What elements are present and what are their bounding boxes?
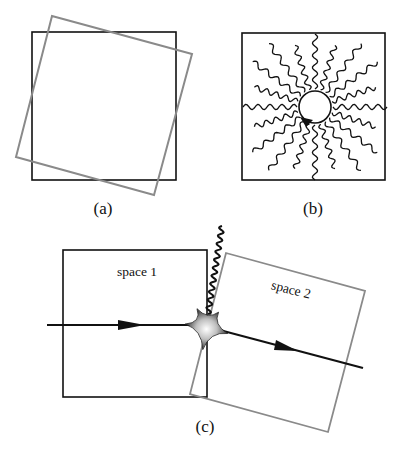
wavy-ray (319, 124, 335, 169)
outgoing-arrow-icon (274, 340, 298, 351)
incoming-arrow-icon (118, 320, 145, 330)
panel-b: (b) (242, 33, 387, 218)
wavy-ray (253, 117, 301, 152)
panel-b-label: (b) (303, 199, 323, 218)
space-2-label: space 2 (270, 277, 313, 301)
wavy-ray (333, 105, 387, 110)
wavy-ray (243, 104, 297, 109)
wavy-ray (332, 87, 376, 103)
wavy-ray (330, 62, 378, 97)
panel-a-label: (a) (94, 199, 113, 218)
rotated-square (16, 16, 192, 195)
wavy-ray (313, 34, 318, 89)
panel-a: (a) (16, 16, 192, 218)
wavy-ray (295, 45, 311, 90)
wavy-ray (312, 125, 317, 180)
wavy-ray (269, 44, 305, 93)
panel-c-label: (c) (196, 417, 215, 436)
panel-c: space 1 space 2 (c) (47, 226, 365, 436)
upright-square (32, 32, 176, 180)
wavy-ray (254, 111, 298, 127)
figure-canvas: (a) (b) space 1 space 2 (c) (0, 0, 403, 449)
wavy-ray (325, 122, 361, 171)
space-1-label: space 1 (117, 264, 157, 279)
